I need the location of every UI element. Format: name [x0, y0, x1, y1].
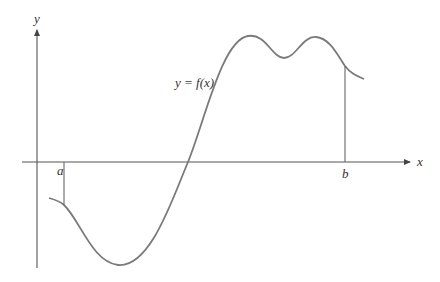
function-graph: y x a b y = f(x) — [0, 0, 440, 282]
x-axis-label: x — [416, 154, 423, 169]
bound-label-b: b — [342, 166, 349, 181]
curve-label: y = f(x) — [173, 75, 214, 90]
bound-label-a: a — [57, 163, 64, 178]
y-axis-label: y — [32, 11, 40, 26]
function-curve — [49, 36, 364, 265]
